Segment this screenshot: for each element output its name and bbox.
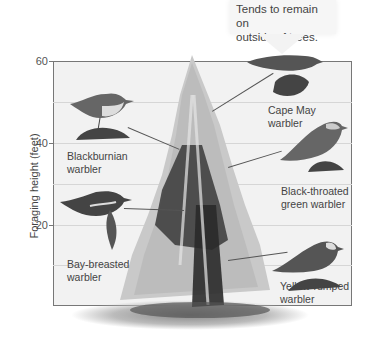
- label-cape-may: Cape May warbler: [268, 104, 316, 130]
- callout-box: Tends to remain on outside of trees.: [230, 0, 336, 34]
- label-blackburnian: Blackburnian warbler: [67, 150, 128, 176]
- tick-40: [49, 143, 54, 144]
- label-yellow-rumped: Yellow-rumped warbler: [280, 280, 349, 306]
- label-bay-breasted: Bay-breasted warbler: [67, 258, 129, 284]
- blackburnian-warbler-illustration: [62, 82, 142, 144]
- cape-may-warbler-illustration: [245, 52, 325, 102]
- tick-20: [49, 225, 54, 226]
- bay-breasted-warbler-illustration: [60, 190, 136, 252]
- label-black-throated-green: Black-throated green warbler: [281, 185, 349, 211]
- callout-pointer: [258, 34, 306, 54]
- tick-60: [49, 61, 54, 62]
- y-axis-label: Foraging height (feet): [28, 126, 40, 246]
- tick-label-60: 60: [26, 55, 48, 67]
- callout-text-line1: Tends to remain on: [236, 2, 330, 30]
